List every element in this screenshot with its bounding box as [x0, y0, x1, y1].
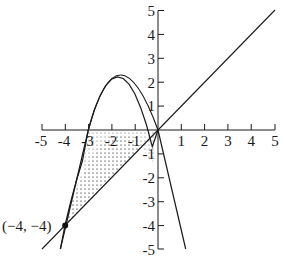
y-tick-label: -4 — [143, 218, 156, 234]
x-tick-label: -1 — [128, 133, 141, 149]
y-tick-label: 2 — [148, 75, 156, 91]
x-tick-label: 2 — [201, 133, 209, 149]
y-tick-label: -5 — [143, 242, 156, 258]
y-tick-label: -3 — [143, 194, 156, 210]
point-label: (−4, −4) — [2, 218, 51, 235]
y-tick-label: 1 — [148, 98, 156, 114]
x-tick-label: -4 — [58, 133, 71, 149]
x-tick-label: 3 — [224, 133, 232, 149]
x-tick-label: -5 — [35, 133, 48, 149]
x-tick-label: 5 — [271, 133, 279, 149]
y-tick-label: 5 — [148, 3, 156, 19]
y-tick-label: 3 — [148, 51, 156, 67]
x-tick-label: -2 — [105, 133, 118, 149]
x-tick-label: -3 — [81, 133, 94, 149]
y-tick-label: -2 — [143, 170, 156, 186]
x-tick-label: 4 — [247, 133, 255, 149]
y-tick-label: 4 — [148, 27, 156, 43]
x-tick-label: 1 — [178, 133, 186, 149]
y-tick-label: -1 — [143, 146, 156, 162]
graph: -5 -4 -3 -2 -1 1 2 3 4 5 5 4 3 2 1 -1 -2… — [0, 0, 285, 263]
point-marker — [62, 223, 68, 229]
